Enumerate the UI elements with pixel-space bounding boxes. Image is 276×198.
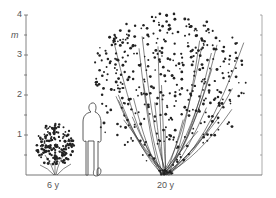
y-axis-unit-label: m bbox=[11, 31, 19, 40]
y-tick-label-1: 1 bbox=[12, 130, 22, 139]
diagram-canvas: 4 m 3 2 1 6 y 20 y bbox=[0, 0, 276, 198]
y-tick-label-3: 3 bbox=[12, 50, 22, 59]
right-axis bbox=[260, 15, 262, 175]
y-tick-label-4: 4 bbox=[12, 10, 22, 19]
left-axis bbox=[24, 15, 28, 175]
diagram-svg bbox=[0, 0, 276, 198]
small-shrub-6y bbox=[35, 123, 75, 175]
specimen-label-6y: 6 y bbox=[47, 181, 59, 190]
specimen-label-20y: 20 y bbox=[157, 181, 174, 190]
human-figure-icon bbox=[83, 103, 101, 176]
y-tick-label-2: 2 bbox=[12, 90, 22, 99]
large-shrub-20y bbox=[94, 12, 247, 175]
